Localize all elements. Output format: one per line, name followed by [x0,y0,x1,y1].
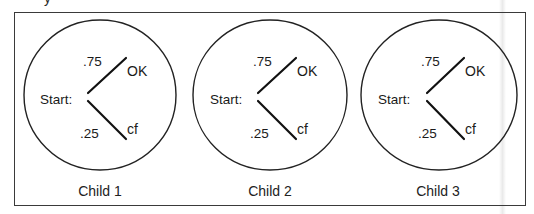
child-2-cf-outcome: cf [297,121,308,137]
child-1-start-label: Start: [40,92,72,107]
child-1-cf-outcome: cf [127,121,138,137]
child-2-ok-outcome: OK [297,63,318,79]
child-1-caption: Child 1 [78,183,122,199]
child-2-cf-probability: .25 [250,126,269,141]
probability-tree-diagram: Start: .75 OK .25 cf Start: .75 OK .25 c… [0,0,534,214]
child-3-ok-outcome: OK [465,63,486,79]
child-3-start-label: Start: [378,92,410,107]
child-3-caption: Child 3 [416,183,460,199]
child-1-cf-probability: .25 [80,126,99,141]
child-3-cf-probability: .25 [418,126,437,141]
child-1-ok-probability: .75 [83,54,102,69]
child-2-start-label: Start: [210,92,242,107]
child-3-tree: Start: .75 OK .25 cf [361,20,517,170]
child-2-caption: Child 2 [248,183,292,199]
child-3-ok-probability: .75 [421,54,440,69]
child-1-ok-outcome: OK [127,63,148,79]
child-3-cf-outcome: cf [465,121,476,137]
child-2-ok-probability: .75 [253,54,272,69]
child-2-tree: Start: .75 OK .25 cf [193,20,347,170]
child-1-tree: Start: .75 OK .25 cf [24,20,176,170]
